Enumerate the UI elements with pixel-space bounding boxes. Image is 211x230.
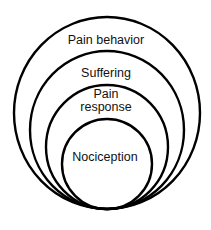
label-pain-behavior: Pain behavior bbox=[68, 33, 144, 47]
label-suffering: Suffering bbox=[81, 66, 131, 80]
label-nociception: Nociception bbox=[72, 150, 137, 164]
circle-nociception bbox=[62, 119, 152, 209]
label-pain-response-line1: Pain bbox=[93, 87, 118, 101]
nested-circles-diagram: Pain behavior Suffering Pain response No… bbox=[0, 0, 211, 230]
label-pain-response-line2: response bbox=[80, 100, 131, 114]
